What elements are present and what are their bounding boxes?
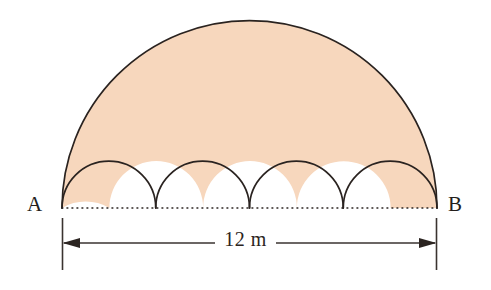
dimension-label: 12 m (215, 229, 276, 249)
point-label-a: A (27, 194, 42, 215)
point-label-b: B (448, 194, 462, 215)
shaded-region (62, 21, 437, 208)
dimension-label-container: 12 m (0, 229, 491, 249)
geometry-figure: A B 12 m (0, 0, 491, 290)
